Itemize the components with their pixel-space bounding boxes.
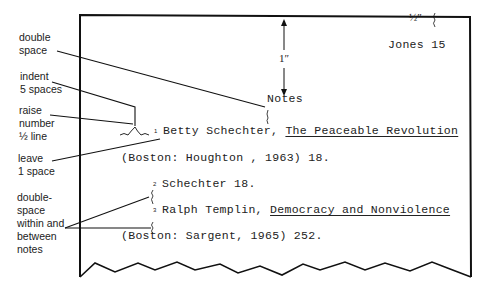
annotation-double-space-notes: double- space within and between notes — [17, 191, 64, 256]
note-number: 3 — [153, 207, 156, 213]
annotation-line: space — [19, 44, 51, 57]
one-inch-margin-label: 1″ — [278, 52, 290, 64]
annotation-line: raise — [19, 104, 55, 117]
annotation-double-space: double space — [19, 31, 51, 57]
annotation-leave-space: leave 1 space — [18, 152, 55, 178]
annotation-line: space — [17, 204, 64, 217]
note-3-line-2: (Boston: Sargent, 1965) 252. — [121, 229, 323, 242]
note-3-line-1: Ralph Templin, Democracy and Nonviolence — [162, 203, 450, 216]
note-author: Ralph Templin, — [162, 203, 263, 216]
annotation-raise-number: raise number ½ line — [19, 104, 55, 143]
annotation-line: notes — [17, 243, 64, 256]
note-author: Betty Schechter, — [163, 124, 278, 137]
annotation-line: 5 spaces — [20, 83, 62, 96]
annotation-line: indent — [20, 70, 62, 83]
annotation-line: double — [19, 31, 51, 44]
notes-page-diagram: double space indent 5 spaces raise numbe… — [0, 0, 493, 285]
note-number: 1 — [154, 128, 157, 134]
annotation-indent: indent 5 spaces — [20, 70, 62, 96]
annotation-line: leave — [18, 152, 55, 165]
note-number: 2 — [153, 181, 156, 187]
note-2-line-1: Schechter 18. — [162, 177, 256, 190]
annotation-line: within and — [17, 217, 64, 230]
annotation-line: ½ line — [19, 130, 55, 143]
running-head: Jones 15 — [388, 38, 446, 51]
half-inch-margin-label: ½″ — [409, 11, 422, 23]
annotation-line: double- — [17, 191, 64, 204]
annotation-line: between — [17, 230, 64, 243]
notes-heading: Notes — [267, 92, 303, 105]
annotation-line: 1 space — [18, 165, 55, 178]
note-1-line-2: (Boston: Houghton , 1963) 18. — [121, 151, 330, 164]
note-title: Democracy and Nonviolence — [270, 203, 450, 216]
note-1-line-1: Betty Schechter, The Peaceable Revolutio… — [163, 124, 458, 137]
annotation-line: number — [19, 117, 55, 130]
torn-edge — [80, 262, 471, 277]
note-title: The Peaceable Revolution — [285, 124, 458, 137]
